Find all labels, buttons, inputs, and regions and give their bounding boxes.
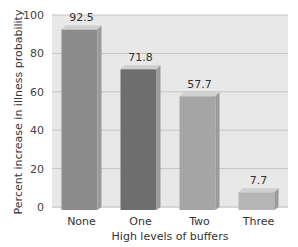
y-tick-label: 40 bbox=[30, 124, 44, 137]
x-tick-label: One bbox=[129, 215, 152, 228]
y-axis-ticks: 020406080100 bbox=[23, 9, 44, 214]
bar-value-label: 57.7 bbox=[187, 78, 212, 91]
bar-one: 71.8 bbox=[121, 51, 161, 210]
x-tick-label: None bbox=[67, 215, 96, 228]
bar-value-label: 71.8 bbox=[128, 51, 153, 64]
bar-two: 57.7 bbox=[180, 78, 220, 210]
bar-none: 92.5 bbox=[62, 11, 102, 210]
x-axis-ticks: NoneOneTwoThree bbox=[67, 215, 274, 228]
x-axis-label: High levels of buffers bbox=[112, 230, 229, 243]
y-tick-label: 60 bbox=[30, 86, 44, 99]
y-axis-label: Percent increase in illness probability bbox=[12, 9, 25, 214]
x-tick-label: Two bbox=[188, 215, 210, 228]
y-tick-label: 0 bbox=[37, 201, 44, 214]
bar-value-label: 92.5 bbox=[69, 11, 94, 24]
x-tick-label: Three bbox=[242, 215, 275, 228]
y-tick-label: 20 bbox=[30, 163, 44, 176]
bar-chart: 020406080100 92.571.857.77.7 NoneOneTwoT… bbox=[0, 0, 298, 247]
y-tick-label: 100 bbox=[23, 9, 44, 22]
bar-value-label: 7.7 bbox=[250, 174, 268, 187]
y-tick-label: 80 bbox=[30, 47, 44, 60]
